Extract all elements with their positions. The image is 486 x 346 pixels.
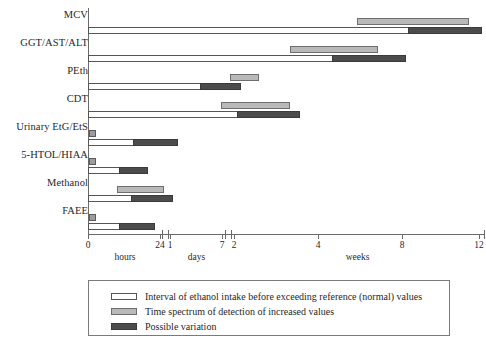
axis-segment-boundary bbox=[162, 230, 163, 239]
axis-tick-label: 24 bbox=[155, 240, 165, 250]
bar-interval bbox=[88, 167, 120, 174]
axis-segment-boundary bbox=[168, 230, 169, 239]
axis-tick-label: 8 bbox=[400, 240, 405, 250]
legend-item: Time spectrum of detection of increased … bbox=[111, 305, 334, 318]
category-label: Urinary EtG/EtS bbox=[16, 121, 88, 132]
axis-tick bbox=[479, 234, 480, 239]
bar-interval bbox=[88, 111, 238, 118]
category-label: FAEE bbox=[62, 205, 88, 216]
legend-swatch-spectrum bbox=[111, 308, 137, 315]
chart-legend: Interval of ethanol intake before exceed… bbox=[88, 280, 450, 336]
axis-tick bbox=[234, 234, 235, 239]
bar-spectrum bbox=[117, 186, 164, 193]
category-label: GGT/AST/ALT bbox=[20, 37, 88, 48]
bar-variation bbox=[408, 27, 482, 34]
bar-variation bbox=[200, 83, 241, 90]
bar-interval bbox=[88, 223, 120, 230]
axis-segment-name: days bbox=[188, 252, 205, 262]
bar-spectrum bbox=[221, 102, 290, 109]
bar-interval bbox=[88, 83, 201, 90]
bar-spectrum bbox=[290, 46, 378, 53]
bar-interval bbox=[88, 195, 132, 202]
spectrum-marker bbox=[89, 158, 96, 165]
axis-segment-name: weeks bbox=[346, 252, 370, 262]
spectrum-marker bbox=[89, 130, 96, 137]
axis-tick-label: 0 bbox=[86, 240, 91, 250]
legend-swatch-interval bbox=[111, 293, 137, 300]
bar-variation bbox=[237, 111, 300, 118]
axis-tick-label: 2 bbox=[232, 240, 237, 250]
axis-tick bbox=[160, 234, 161, 239]
legend-label: Time spectrum of detection of increased … bbox=[145, 306, 334, 317]
bar-variation bbox=[119, 167, 148, 174]
x-axis-line bbox=[88, 234, 484, 235]
axis-segment-boundary bbox=[231, 230, 232, 239]
axis-tick-label: 1 bbox=[168, 240, 173, 250]
axis-tick bbox=[318, 234, 319, 239]
bar-variation bbox=[133, 139, 178, 146]
legend-label: Interval of ethanol intake before exceed… bbox=[145, 291, 422, 302]
axis-tick bbox=[402, 234, 403, 239]
legend-swatch-variation bbox=[111, 323, 137, 330]
axis-tick-label: 4 bbox=[316, 240, 321, 250]
legend-label: Possible variation bbox=[145, 321, 216, 332]
axis-segment-boundary bbox=[484, 230, 485, 239]
axis-tick bbox=[170, 234, 171, 239]
bar-interval bbox=[88, 139, 134, 146]
bar-variation bbox=[119, 223, 155, 230]
spectrum-marker bbox=[89, 214, 96, 221]
axis-tick bbox=[88, 234, 89, 239]
plot-area: MCVGGT/AST/ALTPEthCDTUrinary EtG/EtS5-HT… bbox=[0, 0, 486, 240]
legend-item: Possible variation bbox=[111, 320, 216, 333]
bar-interval bbox=[88, 27, 409, 34]
bar-spectrum bbox=[357, 18, 469, 25]
legend-item: Interval of ethanol intake before exceed… bbox=[111, 290, 422, 303]
category-label: CDT bbox=[67, 93, 88, 104]
category-label: 5-HTOL/HIAA bbox=[21, 149, 88, 160]
axis-tick bbox=[222, 234, 223, 239]
category-label: Methanol bbox=[47, 177, 88, 188]
bar-variation bbox=[332, 55, 406, 62]
alcohol-biomarker-timeline-chart: MCVGGT/AST/ALTPEthCDTUrinary EtG/EtS5-HT… bbox=[0, 0, 486, 346]
axis-segment-boundary bbox=[225, 230, 226, 239]
axis-tick-label: 12 bbox=[474, 240, 484, 250]
axis-tick-label: 7 bbox=[220, 240, 225, 250]
bar-spectrum bbox=[230, 74, 259, 81]
category-label: MCV bbox=[64, 9, 88, 20]
bar-interval bbox=[88, 55, 333, 62]
category-label: PEth bbox=[67, 65, 88, 76]
bar-variation bbox=[131, 195, 173, 202]
axis-segment-name: hours bbox=[114, 252, 135, 262]
